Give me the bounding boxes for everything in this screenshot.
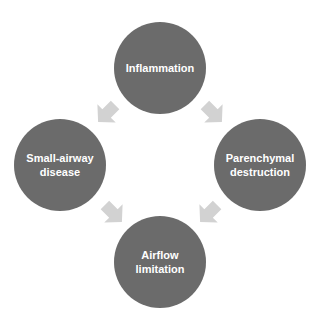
node-label: Small-airway disease — [26, 151, 93, 179]
arrow-parenchymal-to-airflow — [191, 196, 226, 231]
node-inflammation: Inflammation — [114, 22, 206, 114]
node-label: Parenchymal destruction — [226, 151, 294, 179]
arrow-inflammation-to-parenchymal — [196, 96, 231, 131]
node-label: Airflow limitation — [136, 248, 185, 276]
arrow-small-airway-to-airflow — [96, 196, 131, 231]
node-parenchymal-destruction: Parenchymal destruction — [214, 119, 306, 211]
node-airflow-limitation: Airflow limitation — [114, 216, 206, 308]
node-small-airway-disease: Small-airway disease — [14, 119, 106, 211]
node-label: Inflammation — [126, 61, 194, 75]
arrow-inflammation-to-small-airway — [89, 96, 124, 131]
